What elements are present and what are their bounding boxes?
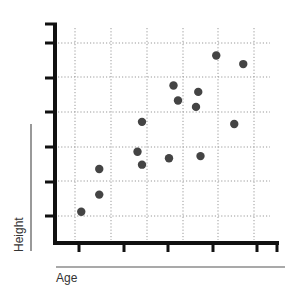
grid-lines [58,28,270,240]
scatter-plot [0,0,297,298]
data-point [192,103,200,111]
data-point [133,148,141,156]
data-point [77,208,85,216]
data-point [138,160,146,168]
data-points [77,51,247,216]
data-point [230,120,238,128]
x-axis-label: Age [56,271,77,285]
data-point [138,118,146,126]
data-point [194,88,202,96]
data-point [239,60,247,68]
data-point [169,81,177,89]
data-point [174,96,182,104]
data-point [165,154,173,162]
data-point [212,51,220,59]
y-axis-label: Height [12,212,32,252]
data-point [95,190,103,198]
data-point [196,152,204,160]
data-point [95,165,103,173]
